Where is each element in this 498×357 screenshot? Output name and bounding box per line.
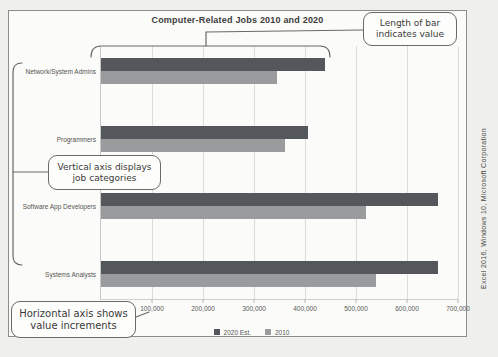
category-label-systems-analysts: Systems Analysts [0, 271, 96, 278]
legend-item-2010: 2010 [265, 329, 289, 336]
category-label-software-app-developers: Software App Developers [0, 203, 96, 210]
bar-2020-est-network-system-admins [101, 58, 325, 71]
x-tick-label-400-000: 400,000 [293, 305, 317, 312]
x-tick-mark-400-000 [305, 299, 306, 303]
bar-group-programmers [101, 126, 458, 152]
legend-label-2020-est: 2020 Est. [224, 329, 251, 336]
bar-group-software-app-developers [101, 193, 458, 219]
legend-swatch-2020-est [214, 329, 220, 335]
x-tick-mark-500-000 [356, 299, 357, 303]
callout-horizontal-axis-line2: value increments [12, 320, 135, 332]
x-tick-label-700-000: 700,000 [446, 305, 470, 312]
bar-group-systems-analysts [101, 261, 458, 287]
bar-2020-est-systems-analysts [101, 261, 438, 274]
x-tick-label-500-000: 500,000 [344, 305, 368, 312]
gridline-700-000 [458, 46, 459, 299]
bar-2010-programmers [101, 139, 285, 152]
x-tick-label-600-000: 600,000 [395, 305, 419, 312]
x-tick-label-300-000: 300,000 [242, 305, 266, 312]
legend-item-2020-est: 2020 Est. [214, 329, 251, 336]
x-tick-mark-100-000 [152, 299, 153, 303]
x-tick-mark-300-000 [254, 299, 255, 303]
x-tick-mark-200-000 [203, 299, 204, 303]
legend-label-2010: 2010 [275, 329, 289, 336]
callout-bar-length-line1: Length of bar [364, 18, 456, 29]
callout-horizontal-axis-line1: Horizontal axis shows [12, 308, 135, 320]
category-label-programmers: Programmers [0, 135, 96, 142]
x-tick-label-200-000: 200,000 [191, 305, 215, 312]
callout-vertical-axis: Vertical axis displays job categories [48, 155, 161, 190]
bar-2020-est-programmers [101, 126, 308, 139]
page: Computer-Related Jobs 2010 and 2020 100,… [0, 0, 498, 357]
bar-2010-network-system-admins [101, 71, 277, 84]
callout-bar-length-line2: indicates value [364, 29, 456, 40]
legend-swatch-2010 [265, 329, 271, 335]
callout-vertical-axis-line2: job categories [49, 173, 160, 184]
source-caption: Excel 2016, Windows 10, Microsoft Corpor… [480, 128, 487, 289]
bar-group-network-system-admins [101, 58, 458, 84]
callout-horizontal-axis: Horizontal axis shows value increments [11, 301, 136, 338]
bar-2010-software-app-developers [101, 206, 366, 219]
x-tick-label-100-000: 100,000 [140, 305, 164, 312]
x-tick-mark-700-000 [458, 299, 459, 303]
callout-vertical-axis-line1: Vertical axis displays [49, 162, 160, 173]
callout-bar-length: Length of bar indicates value [363, 12, 457, 46]
bar-2020-est-software-app-developers [101, 193, 438, 206]
x-axis: 100,000200,000300,000400,000500,000600,0… [101, 299, 458, 319]
category-label-network-system-admins: Network/System Admins [0, 68, 96, 75]
x-tick-mark-600-000 [407, 299, 408, 303]
bar-2010-systems-analysts [101, 274, 376, 287]
